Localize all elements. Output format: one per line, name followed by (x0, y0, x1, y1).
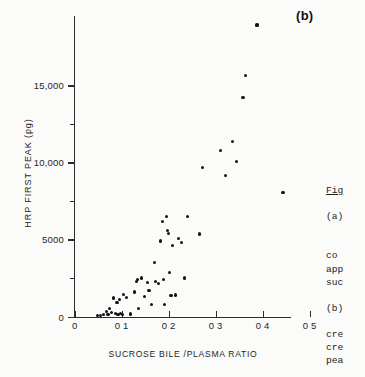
caption-line: co (326, 249, 365, 262)
caption-spacer (326, 289, 365, 302)
x-tick-3 (216, 311, 217, 317)
data-point (118, 298, 121, 301)
x-tick-4 (263, 311, 264, 317)
data-point (112, 296, 115, 299)
data-point (140, 276, 143, 279)
x-tick-label-0: 0 (72, 320, 77, 331)
data-point (159, 239, 162, 242)
data-point (224, 174, 227, 177)
x-tick-label-4: 0 4 (256, 320, 270, 331)
data-point (143, 295, 146, 298)
y-tick-label-0: 0 (10, 311, 64, 322)
data-point (157, 282, 160, 285)
data-point (169, 294, 172, 297)
x-axis-line (74, 317, 291, 318)
y-tick-1 (70, 278, 76, 279)
data-point (183, 276, 186, 279)
figure-caption-text: Fig(a)coappsuc(b)crecrepea (326, 184, 365, 367)
data-point (244, 74, 247, 77)
data-point (129, 312, 132, 315)
data-point (162, 278, 165, 281)
data-point (231, 140, 234, 143)
caption-line: (b) (326, 302, 365, 315)
x-tick-label-3: 0 3 (209, 320, 223, 331)
data-point (171, 244, 174, 247)
data-point (163, 303, 166, 306)
y-tick-3 (70, 201, 76, 202)
caption-spacer (326, 197, 365, 210)
caption-line: cre (326, 341, 365, 354)
y-tick-2 (68, 239, 75, 240)
data-point (147, 289, 150, 292)
data-point (255, 23, 258, 26)
data-point (115, 301, 118, 304)
data-point (174, 293, 177, 296)
panel-letter-b: (b) (296, 8, 314, 23)
scatter-plot: 0500010,00015,000 00 10 20 30 40 5 HRP F… (0, 0, 300, 377)
caption-line: suc (326, 276, 365, 289)
x-tick-label-5: 0 5 (303, 320, 317, 331)
x-tick-5 (310, 311, 311, 317)
caption-line: (a) (326, 210, 365, 223)
data-point (108, 307, 111, 310)
x-tick-label-2: 0 2 (162, 320, 176, 331)
data-point (241, 96, 244, 99)
caption-spacer (326, 236, 365, 249)
caption-line: Fig (326, 184, 365, 197)
data-point (198, 232, 201, 235)
data-point (177, 237, 180, 240)
data-point (161, 220, 164, 223)
data-point (219, 149, 222, 152)
data-point (153, 261, 156, 264)
caption-line: pea (326, 354, 365, 367)
y-tick-5 (70, 124, 76, 125)
data-point (110, 311, 113, 314)
data-point (136, 278, 139, 281)
data-point (186, 215, 189, 218)
x-tick-0 (75, 311, 76, 317)
data-point (235, 160, 238, 163)
x-tick-2 (169, 311, 170, 317)
figure-panel: 0500010,00015,000 00 10 20 30 40 5 HRP F… (0, 0, 300, 377)
data-point (201, 166, 204, 169)
caption-spacer (326, 315, 365, 328)
data-point (165, 215, 168, 218)
data-point (125, 296, 128, 299)
data-point (102, 313, 105, 316)
y-tick-4 (68, 162, 75, 163)
caption-spacer (326, 223, 365, 236)
caption-line: cre (326, 328, 365, 341)
data-point (281, 191, 284, 194)
y-tick-6 (68, 85, 75, 86)
y-axis-line (74, 16, 75, 318)
y-tick-label-6: 15,000 (10, 80, 64, 91)
data-point (180, 241, 183, 244)
data-point (137, 307, 140, 310)
caption-line: app (326, 263, 365, 276)
data-point (150, 303, 153, 306)
data-point (146, 281, 149, 284)
data-point (167, 232, 170, 235)
y-tick-label-4: 10,000 (10, 157, 64, 168)
y-tick-label-2: 5000 (10, 234, 64, 245)
data-point (106, 313, 109, 316)
y-axis-title: HRP FIRST PEAK (pg) (23, 103, 33, 243)
data-point (133, 290, 136, 293)
x-tick-label-1: 0 1 (115, 320, 129, 331)
x-axis-title: SUCROSE BILE /PLASMA RATIO (75, 349, 291, 359)
data-point (168, 271, 171, 274)
